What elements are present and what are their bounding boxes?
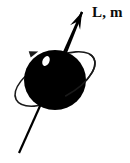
angular-momentum-label: L, m [92, 4, 123, 20]
angular-momentum-figure: L, m [0, 0, 130, 163]
figure-canvas [0, 0, 130, 163]
